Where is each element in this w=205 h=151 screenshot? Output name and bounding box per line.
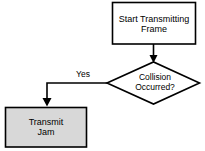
flowchart-graphics bbox=[0, 0, 205, 151]
node-collision-occurred-decision bbox=[107, 62, 200, 104]
edge-decision-to-jam bbox=[43, 83, 108, 107]
node-transmit-jam bbox=[6, 108, 87, 148]
node-start-transmitting-frame bbox=[113, 3, 196, 45]
edge-decision-to-jam-line bbox=[47, 83, 107, 101]
flowchart-canvas: Start Transmitting Frame Collision Occur… bbox=[0, 0, 205, 151]
edge-start-to-decision bbox=[150, 44, 158, 63]
edge-decision-to-jam-arrowhead bbox=[43, 98, 52, 107]
